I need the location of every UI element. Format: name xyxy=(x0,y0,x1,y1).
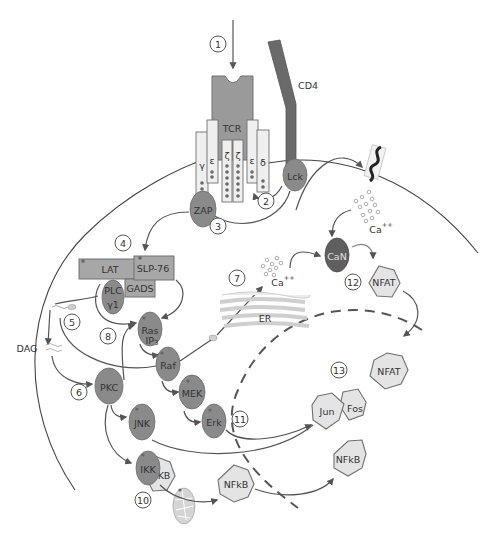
svg-text:PKC: PKC xyxy=(100,382,118,393)
svg-text:ε: ε xyxy=(249,155,254,166)
step-4-marker: 4 xyxy=(115,235,131,251)
ikk-kinase: IKK xyxy=(136,451,160,485)
lipid-head xyxy=(68,305,76,310)
proteasome xyxy=(173,488,195,524)
svg-text:PLC: PLC xyxy=(104,285,122,296)
cd4-coreceptor xyxy=(268,40,296,166)
calcium-ions-er xyxy=(261,256,283,277)
step-1-marker: 1 xyxy=(210,36,226,52)
svg-text:10: 10 xyxy=(137,495,149,506)
svg-text:11: 11 xyxy=(234,414,246,425)
svg-text:5: 5 xyxy=(69,317,75,328)
svg-text:GADS: GADS xyxy=(126,283,153,294)
can-to-nfat-arrow xyxy=(352,244,373,258)
svg-text:CaN: CaN xyxy=(327,251,347,262)
svg-text:3: 3 xyxy=(215,221,221,232)
svg-text:13: 13 xyxy=(333,365,345,376)
lck-to-channel-arrow xyxy=(296,158,362,210)
step-2-marker: 2 xyxy=(258,193,274,209)
zeta-left-chain: ζ xyxy=(222,140,232,202)
pkc-to-ikk-arrow xyxy=(105,405,131,463)
svg-text:2: 2 xyxy=(263,196,269,207)
ca-er-label: Ca++ xyxy=(271,274,294,288)
nfkb-nuclear: NFkB xyxy=(334,440,366,476)
nfkb-cytoplasmic: NFkB xyxy=(218,465,254,502)
svg-text:ζ: ζ xyxy=(224,150,229,161)
pkc-kinase: PKC xyxy=(95,368,123,404)
slp76-to-ras-arrow xyxy=(162,280,183,318)
calcium-channel xyxy=(364,145,386,181)
svg-text:Erk: Erk xyxy=(206,417,222,428)
calcium-ions-extracellular xyxy=(354,190,380,223)
step-12-marker: 12 xyxy=(345,274,361,290)
ca-extracellular-label: Ca++ xyxy=(369,221,392,235)
svg-text:ζ: ζ xyxy=(235,150,240,161)
ca-ext-to-can-arrow xyxy=(332,210,351,236)
step-6-marker: 6 xyxy=(71,384,87,400)
svg-text:Lck: Lck xyxy=(287,171,304,182)
zap-to-lat-arrow xyxy=(145,212,189,250)
endoplasmic-reticulum: ER xyxy=(220,292,310,326)
calcineurin: CaN xyxy=(325,238,349,272)
svg-text:δ: δ xyxy=(260,157,266,168)
cd3-gamma-chain: γ xyxy=(196,132,208,194)
step-3-marker: 3 xyxy=(210,218,226,234)
svg-text:6: 6 xyxy=(76,387,82,398)
step-8-marker: 8 xyxy=(100,328,116,344)
svg-text:NFkB: NFkB xyxy=(336,454,361,465)
svg-text:JNK: JNK xyxy=(133,418,151,429)
svg-text:ZAP: ZAP xyxy=(194,205,213,216)
lipid-pip2 xyxy=(52,306,68,309)
gads-adaptor: GADS xyxy=(125,279,155,297)
dag-to-pkc-arrow xyxy=(52,356,92,384)
svg-text:NFAT: NFAT xyxy=(377,366,400,377)
slp76-adaptor: SLP-76 xyxy=(134,256,174,280)
svg-text:LAT: LAT xyxy=(101,264,118,275)
svg-text:MEK: MEK xyxy=(182,388,203,399)
nfat-nuclear-import-arrow xyxy=(403,291,418,336)
svg-text:8: 8 xyxy=(105,331,111,342)
jnk-kinase: JNK xyxy=(129,404,155,440)
svg-text:γ: γ xyxy=(199,160,205,171)
svg-text:NFkB: NFkB xyxy=(224,479,249,490)
cd3-epsilon-right-chain: ε xyxy=(247,120,258,183)
cd3-epsilon-left-chain: ε xyxy=(207,120,218,183)
svg-text:IKK: IKK xyxy=(140,464,156,475)
pip2-to-dag-arrow xyxy=(48,310,50,344)
step-13-marker: 13 xyxy=(331,362,347,378)
nfat-cytoplasmic: NFAT xyxy=(369,266,400,297)
cd4-label: CD4 xyxy=(298,80,318,91)
step-10-marker: 10 xyxy=(135,492,151,508)
svg-text:γ1: γ1 xyxy=(107,299,119,310)
raf-kinase: Raf xyxy=(156,347,180,381)
svg-text:Jun: Jun xyxy=(319,406,335,417)
dag-lipid xyxy=(46,344,62,352)
erk-kinase: Erk xyxy=(202,404,226,438)
zeta-right-chain: ζ xyxy=(233,140,243,202)
cd3-delta-chain: δ xyxy=(257,130,269,192)
svg-text:4: 4 xyxy=(120,238,126,249)
tcr-label: TCR xyxy=(222,123,242,134)
svg-text:ε: ε xyxy=(209,155,214,166)
lck-kinase: Lck xyxy=(283,159,307,191)
step-5-marker: 5 xyxy=(64,314,80,330)
svg-text:12: 12 xyxy=(347,277,359,288)
raf-to-mek-arrow xyxy=(162,381,178,392)
svg-text:SLP-76: SLP-76 xyxy=(137,263,169,274)
step-11-marker: 11 xyxy=(232,411,248,427)
tcr-signaling-diagram: 1 CD4 TCR γ ε ζ ζ ε δ xyxy=(0,0,502,539)
raf-to-ip3-line xyxy=(180,340,211,361)
nfat-nuclear: NFAT xyxy=(370,353,408,389)
step-7-marker: 7 xyxy=(229,270,245,286)
mek-to-erk-arrow xyxy=(184,411,200,422)
svg-text:NFAT: NFAT xyxy=(372,277,395,288)
svg-text:7: 7 xyxy=(234,273,240,284)
dag-label: DAG xyxy=(17,343,38,354)
pkc-to-ras-arrow xyxy=(122,325,134,380)
svg-text:Raf: Raf xyxy=(160,360,176,371)
mek-kinase: MEK xyxy=(179,375,205,409)
jun-factor: Jun xyxy=(312,393,344,429)
ca-er-to-can-arrow xyxy=(290,252,320,268)
svg-text:1: 1 xyxy=(215,39,221,50)
plc-to-lipid-line xyxy=(55,296,98,304)
